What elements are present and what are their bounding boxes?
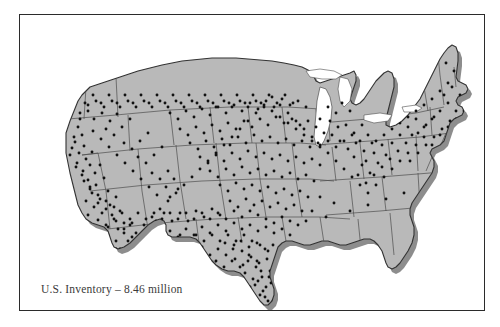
inventory-dot (267, 300, 270, 303)
inventory-dot (265, 226, 268, 229)
inventory-dot (409, 160, 412, 163)
inventory-dot (79, 112, 82, 115)
inventory-dot (111, 254, 114, 257)
inventory-dot (259, 244, 262, 247)
inventory-dot (359, 140, 362, 143)
inventory-dot (159, 178, 162, 181)
inventory-dot (247, 150, 250, 153)
inventory-dot (83, 180, 86, 183)
inventory-dot (105, 208, 108, 211)
inventory-dot (127, 240, 130, 243)
inventory-dot (223, 266, 226, 269)
inventory-dot (177, 250, 180, 253)
inventory-dot (377, 162, 380, 165)
inventory-dot (129, 218, 132, 221)
inventory-dot (223, 160, 226, 163)
inventory-dot (215, 106, 218, 109)
inventory-dot (363, 150, 366, 153)
inventory-dot (381, 144, 384, 147)
inventory-dot (99, 198, 102, 201)
inventory-dot (227, 190, 230, 193)
inventory-dot (151, 172, 154, 175)
inventory-dot (262, 290, 265, 293)
inventory-dot (159, 208, 162, 211)
inventory-dot (225, 168, 228, 171)
inventory-dot (279, 116, 282, 119)
inventory-dot (445, 62, 448, 65)
inventory-dot (81, 174, 84, 177)
inventory-dot (75, 166, 78, 169)
inventory-dot (101, 112, 104, 115)
inventory-dot (119, 106, 122, 109)
inventory-dot (217, 176, 220, 179)
inventory-dot (217, 224, 220, 227)
inventory-dot (417, 152, 420, 155)
inventory-dot (241, 166, 244, 169)
inventory-dot (257, 230, 260, 233)
inventory-dot (385, 154, 388, 157)
inventory-dot (257, 214, 260, 217)
inventory-dot (101, 212, 104, 215)
inventory-dot (233, 286, 236, 289)
inventory-dot (125, 264, 128, 267)
inventory-dot (249, 210, 252, 213)
inventory-dot (285, 270, 288, 273)
inventory-dot (159, 100, 162, 103)
inventory-dot (203, 132, 206, 135)
inventory-dot (287, 160, 290, 163)
inventory-dot (129, 118, 132, 121)
inventory-dot (339, 140, 342, 143)
figure-frame: U.S. Inventory – 8.46 million (19, 14, 485, 311)
inventory-dot (85, 200, 88, 203)
inventory-dot (135, 106, 138, 109)
inventory-dot (281, 98, 284, 101)
inventory-dot (191, 176, 194, 179)
inventory-dot (127, 266, 130, 269)
inventory-dot (143, 266, 146, 269)
inventory-dot (139, 140, 142, 143)
inventory-dot (249, 172, 252, 175)
inventory-dot (391, 142, 394, 145)
inventory-dot (231, 106, 234, 109)
inventory-dot (289, 220, 292, 223)
inventory-dot (281, 228, 284, 231)
inventory-dot (319, 164, 322, 167)
map-caption: U.S. Inventory – 8.46 million (41, 283, 183, 295)
inventory-dot (115, 220, 118, 223)
inventory-dot (185, 228, 188, 231)
inventory-dot (89, 164, 92, 167)
inventory-dot (227, 234, 230, 237)
inventory-dot (235, 182, 238, 185)
inventory-dot (189, 288, 192, 291)
inventory-dot (121, 212, 124, 215)
inventory-dot (276, 102, 279, 105)
inventory-dot (264, 248, 267, 251)
inventory-dot (361, 124, 364, 127)
inventory-dot (179, 234, 182, 237)
inventory-dot (164, 102, 167, 105)
inventory-dot (311, 136, 314, 139)
inventory-dot (113, 206, 116, 209)
inventory-dot (397, 150, 400, 153)
inventory-dot (291, 194, 294, 197)
inventory-dot (295, 120, 298, 123)
inventory-dot (349, 110, 352, 113)
inventory-dot (239, 266, 242, 269)
inventory-dot (163, 234, 166, 237)
inventory-dot (109, 120, 112, 123)
inventory-dot (273, 106, 276, 109)
inventory-dot (319, 146, 322, 149)
inventory-dot (137, 276, 140, 279)
inventory-dot (225, 280, 228, 283)
inventory-dot (169, 244, 172, 247)
inventory-dot (264, 296, 267, 299)
inventory-dot (107, 242, 110, 245)
inventory-dot (284, 278, 287, 281)
inventory-dot (391, 168, 394, 171)
inventory-dot (407, 152, 410, 155)
inventory-dot (165, 186, 168, 189)
inventory-dot (151, 106, 154, 109)
inventory-dot (263, 106, 266, 109)
inventory-dot (433, 136, 436, 139)
inventory-dot (267, 186, 270, 189)
